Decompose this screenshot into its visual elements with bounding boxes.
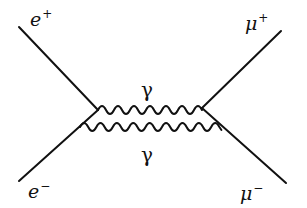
electron-label: e− [28, 180, 50, 201]
antimuon-charge: + [258, 11, 268, 25]
lower-photon-line [80, 123, 221, 131]
positron-line [19, 27, 98, 110]
upper-photon-label: γ [141, 80, 153, 100]
electron-charge: − [40, 179, 50, 193]
electron-line [19, 110, 98, 181]
positron-label: e+ [30, 8, 52, 29]
antimuon-symbol: μ [245, 12, 257, 34]
electron-symbol: e [28, 180, 39, 202]
muon-line [202, 108, 286, 183]
positron-charge: + [42, 7, 52, 21]
upper-photon-line [98, 106, 202, 114]
antimuon-line [202, 31, 281, 108]
positron-symbol: e [30, 8, 41, 30]
muon-charge: − [253, 181, 263, 195]
antimuon-label: μ+ [245, 12, 268, 33]
muon-symbol: μ [240, 182, 252, 204]
muon-label: μ− [240, 182, 263, 203]
lower-photon-label: γ [141, 145, 153, 165]
